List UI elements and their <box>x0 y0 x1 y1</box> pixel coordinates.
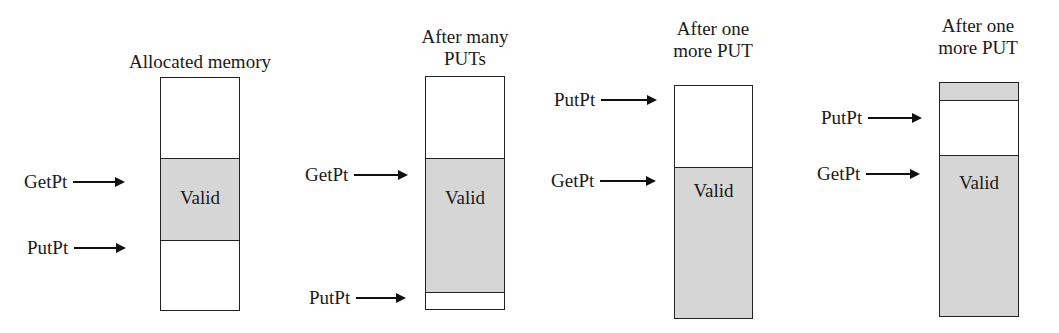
free-segment <box>161 240 239 310</box>
memory-buffer: Valid <box>939 82 1019 317</box>
valid-label: Valid <box>426 187 504 209</box>
free-segment <box>675 86 752 167</box>
pointer-label: PutPt <box>554 89 595 111</box>
memory-buffer: Valid <box>160 77 240 311</box>
arrow-right-icon <box>74 247 124 249</box>
put-pointer: PutPt <box>27 237 124 259</box>
panel-title: After one more PUT <box>908 15 1048 59</box>
arrow-right-icon <box>600 180 654 182</box>
free-segment <box>940 100 1018 155</box>
valid-label: Valid <box>675 180 752 202</box>
valid-label: Valid <box>940 172 1018 194</box>
pointer-label: PutPt <box>27 237 68 259</box>
pointer-label: GetPt <box>24 171 67 193</box>
panel-title-line: After many <box>395 26 535 48</box>
panel-title-line: more PUT <box>643 40 783 62</box>
pointer-label: GetPt <box>551 170 594 192</box>
get-pointer: GetPt <box>305 164 406 186</box>
valid-segment: Valid <box>675 167 752 318</box>
get-pointer: GetPt <box>24 171 123 193</box>
valid-segment-wrapped <box>940 83 1018 100</box>
pointer-label: GetPt <box>817 163 860 185</box>
memory-buffer: Valid <box>425 76 505 310</box>
pointer-label: PutPt <box>821 107 862 129</box>
pointer-label: PutPt <box>309 287 350 309</box>
put-pointer: PutPt <box>821 107 920 129</box>
get-pointer: GetPt <box>551 170 654 192</box>
panel-title-line: PUTs <box>395 48 535 70</box>
arrow-right-icon <box>868 117 920 119</box>
pointer-label: GetPt <box>305 164 348 186</box>
put-pointer: PutPt <box>554 89 655 111</box>
valid-label: Valid <box>161 187 239 209</box>
free-segment <box>426 292 504 309</box>
panel-title-line: After one <box>643 18 783 40</box>
valid-segment: Valid <box>161 158 239 240</box>
free-segment <box>426 77 504 158</box>
arrow-right-icon <box>354 174 406 176</box>
panel-title: Allocated memory <box>100 51 300 73</box>
get-pointer: GetPt <box>817 163 918 185</box>
panel-title-line: After one <box>908 15 1048 37</box>
free-segment <box>161 78 239 158</box>
arrow-right-icon <box>356 297 404 299</box>
put-pointer: PutPt <box>309 287 404 309</box>
arrow-right-icon <box>866 173 918 175</box>
arrow-right-icon <box>601 99 655 101</box>
memory-buffer: Valid <box>674 85 753 319</box>
panel-title: After many PUTs <box>395 26 535 70</box>
panel-title-line: more PUT <box>908 37 1048 59</box>
valid-segment: Valid <box>426 158 504 292</box>
valid-segment: Valid <box>940 155 1018 316</box>
panel-title: After one more PUT <box>643 18 783 62</box>
arrow-right-icon <box>73 181 123 183</box>
